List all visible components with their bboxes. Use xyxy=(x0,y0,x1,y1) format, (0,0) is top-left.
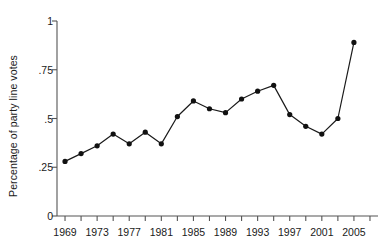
data-point-marker xyxy=(95,143,100,148)
data-point-marker xyxy=(159,141,164,146)
data-point-marker xyxy=(351,40,356,45)
data-point-marker xyxy=(175,114,180,119)
data-point-marker xyxy=(319,132,324,137)
data-point-markers xyxy=(62,40,356,164)
x-axis-tick-marks xyxy=(65,216,370,221)
data-point-marker xyxy=(78,151,83,156)
data-point-marker xyxy=(111,132,116,137)
plot-canvas xyxy=(0,0,384,252)
line-chart-figure: Percentage of party line votes 0.25.5.75… xyxy=(0,0,384,252)
data-point-marker xyxy=(239,96,244,101)
data-point-marker xyxy=(127,141,132,146)
y-axis-tick-marks xyxy=(52,21,57,216)
data-point-marker xyxy=(207,106,212,111)
data-line xyxy=(65,42,354,161)
data-point-marker xyxy=(335,116,340,121)
axis-lines xyxy=(57,21,378,216)
data-point-marker xyxy=(143,130,148,135)
data-point-marker xyxy=(255,89,260,94)
data-point-marker xyxy=(287,112,292,117)
data-point-marker xyxy=(303,124,308,129)
data-point-marker xyxy=(223,110,228,115)
data-point-marker xyxy=(271,83,276,88)
data-point-marker xyxy=(62,159,67,164)
data-point-marker xyxy=(191,98,196,103)
